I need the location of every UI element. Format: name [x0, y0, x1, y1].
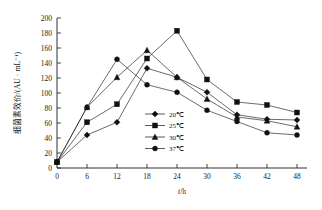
data-point-s0-i2 [114, 119, 120, 125]
data-point-s3-i2 [115, 57, 120, 62]
x-tick-label: 18 [143, 172, 151, 181]
legend-label-1: 25℃ [169, 122, 184, 130]
legend-label-2: 30℃ [169, 134, 184, 142]
data-point-s1-i7 [265, 103, 270, 108]
data-point-s1-i8 [295, 110, 300, 115]
data-point-s3-i0 [55, 160, 60, 165]
y-axis-title: 细菌素效价/(AU · mL⁻¹) [12, 51, 22, 134]
legend-marker-1 [153, 123, 158, 128]
y-tick-label: 20 [45, 149, 53, 158]
y-tick-label: 100 [41, 89, 53, 98]
series-line-1 [57, 31, 297, 162]
legend-label-0: 20℃ [169, 111, 184, 119]
legend-label-3: 37℃ [169, 145, 184, 153]
svg-text:细菌素效价/(AU · mL⁻¹): 细菌素效价/(AU · mL⁻¹) [12, 51, 22, 134]
y-tick-label: 40 [45, 134, 53, 143]
y-tick-label: 80 [45, 104, 53, 113]
x-tick-label: 48 [293, 172, 301, 181]
legend-marker-3 [153, 146, 158, 151]
y-tick-label: 120 [41, 74, 53, 83]
x-tick-label: 24 [173, 172, 181, 181]
x-tick-label: 36 [233, 172, 241, 181]
y-tick-label: 200 [41, 14, 53, 23]
data-point-s3-i5 [205, 108, 210, 113]
data-point-s3-i8 [295, 133, 300, 138]
x-axis-title: t/h [178, 187, 186, 196]
data-point-s1-i2 [115, 102, 120, 107]
x-tick-label: 42 [263, 172, 271, 181]
data-point-s0-i5 [204, 89, 210, 95]
data-point-s3-i4 [175, 90, 180, 95]
data-point-s0-i8 [294, 117, 300, 123]
chart-canvas: 0204060801001201401601802000612182430364… [0, 0, 322, 210]
data-point-s1-i5 [205, 77, 210, 82]
bacteriocin-titer-line-chart: 0204060801001201401601802000612182430364… [0, 0, 322, 210]
y-tick-label: 160 [41, 44, 53, 53]
data-point-s3-i1 [85, 105, 90, 110]
y-tick-label: 180 [41, 29, 53, 38]
data-point-s3-i3 [145, 82, 150, 87]
x-tick-label: 30 [203, 172, 211, 181]
y-tick-label: 60 [45, 119, 53, 128]
data-point-s1-i4 [175, 28, 180, 33]
data-point-s3-i6 [235, 119, 240, 124]
y-tick-label: 140 [41, 59, 53, 68]
data-point-s3-i7 [265, 130, 270, 135]
data-point-s2-i5 [204, 96, 210, 102]
data-point-s1-i1 [85, 120, 90, 125]
x-tick-label: 12 [113, 172, 121, 181]
data-point-s1-i3 [145, 56, 150, 61]
x-tick-label: 0 [55, 172, 59, 181]
data-point-s2-i3 [144, 47, 150, 53]
data-point-s1-i6 [235, 100, 240, 105]
y-tick-label: 0 [48, 164, 52, 173]
data-point-s0-i3 [144, 65, 150, 71]
legend-marker-0 [152, 111, 158, 117]
x-tick-label: 6 [85, 172, 89, 181]
